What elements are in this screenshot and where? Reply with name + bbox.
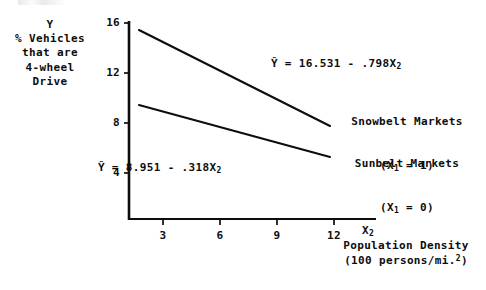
legend-sunbelt-condition-prefix: (X — [380, 201, 394, 214]
x-tick-label-9: 9 — [267, 230, 287, 241]
x-axis-units-exponent: 2 — [456, 254, 461, 263]
y-axis-title: Y % Vehicles that are 4-wheel Drive — [4, 18, 96, 89]
x-axis-title-line-2: (100 persons/mi.2) — [327, 254, 485, 270]
x-axis-symbol: X2 — [362, 224, 374, 237]
y-hat-symbol-upper: Ŷ — [271, 57, 278, 70]
equation-sunbelt-body: = 8.951 - .318X — [105, 161, 217, 174]
x-axis-symbol-subscript: 2 — [369, 229, 374, 238]
y-tick-label-8: 8 — [98, 117, 120, 128]
regression-figure: Y % Vehicles that are 4-wheel Drive 16 1… — [0, 0, 486, 290]
x-axis-title-line-1: Population Density — [327, 239, 485, 254]
y-tick-label-16: 16 — [98, 17, 120, 28]
equation-snowbelt-body: = 16.531 - .798X — [278, 57, 397, 70]
legend-sunbelt-condition-sub: 1 — [394, 206, 399, 215]
y-axis-title-line-3: that are — [4, 46, 96, 60]
x-tick-label-6: 6 — [210, 230, 230, 241]
y-axis-title-line-4: 4-wheel — [4, 61, 96, 75]
y-tick-label-12: 12 — [98, 67, 120, 78]
legend-sunbelt-condition-suffix: = 0) — [399, 201, 434, 214]
x-axis-units-suffix: ) — [461, 254, 468, 267]
x-axis-symbol-letter: X — [362, 224, 369, 237]
y-hat-symbol-lower: Ŷ — [98, 161, 105, 174]
y-axis-title-line-2: % Vehicles — [4, 32, 96, 46]
x-tick-label-3: 3 — [153, 230, 173, 241]
equation-sunbelt: Ŷ = 8.951 - .318X2 — [70, 148, 222, 188]
y-axis-title-line-5: Drive — [4, 75, 96, 89]
equation-sunbelt-subscript: 2 — [216, 166, 221, 175]
equation-snowbelt: Ŷ = 16.531 - .798X2 — [243, 44, 402, 84]
equation-snowbelt-subscript: 2 — [396, 62, 401, 71]
x-axis-title: Population Density (100 persons/mi.2) — [327, 239, 485, 269]
legend-sunbelt-name: Sunbelt Markets — [337, 157, 477, 172]
legend-sunbelt-condition: (X1 = 0) — [337, 201, 477, 217]
legend-entry-sunbelt: Sunbelt Markets (X1 = 0) — [337, 128, 477, 245]
y-axis-title-line-1: Y — [4, 18, 96, 32]
x-axis-units-prefix: (100 persons/mi. — [344, 254, 456, 267]
